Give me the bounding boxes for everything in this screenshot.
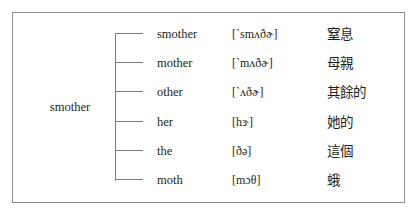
branch-word: other [157, 82, 235, 102]
branch-connector-line [115, 33, 143, 34]
branch-pronunciation: [mɔθ] [232, 170, 318, 190]
branch-row: the[ðə]這個 [115, 141, 405, 161]
branch-chinese-gloss: 蛾 [327, 170, 403, 190]
word-family-tree-figure: smother smother[ˋsmʌðɚ]窒息mother[ˋmʌðɚ]母親… [0, 0, 419, 217]
branch-connector-line [115, 179, 143, 180]
branch-pronunciation: [ˋsmʌðɚ] [232, 24, 318, 44]
branch-word: the [157, 141, 235, 161]
branch-pronunciation: [ðə] [232, 141, 318, 161]
branch-word: mother [157, 53, 235, 73]
branch-chinese-gloss: 這個 [327, 141, 403, 161]
branch-chinese-gloss: 其餘的 [327, 82, 403, 102]
branch-connector-line [115, 121, 143, 122]
branch-row: her[hɝ]她的 [115, 112, 405, 132]
branch-connector-line [115, 91, 143, 92]
branch-row-list: smother[ˋsmʌðɚ]窒息mother[ˋmʌðɚ]母親other[ˋʌ… [0, 0, 419, 217]
branch-row: smother[ˋsmʌðɚ]窒息 [115, 24, 405, 44]
branch-row: other[ˋʌðɚ]其餘的 [115, 82, 405, 102]
branch-pronunciation: [ˋmʌðɚ] [232, 53, 318, 73]
branch-chinese-gloss: 母親 [327, 53, 403, 73]
branch-row: mother[ˋmʌðɚ]母親 [115, 53, 405, 73]
branch-word: her [157, 112, 235, 132]
branch-connector-line [115, 150, 143, 151]
branch-pronunciation: [hɝ] [232, 112, 318, 132]
branch-chinese-gloss: 她的 [327, 112, 403, 132]
branch-chinese-gloss: 窒息 [327, 24, 403, 44]
branch-connector-line [115, 62, 143, 63]
branch-word: moth [157, 170, 235, 190]
branch-row: moth[mɔθ]蛾 [115, 170, 405, 190]
branch-word: smother [157, 24, 235, 44]
branch-pronunciation: [ˋʌðɚ] [232, 82, 318, 102]
